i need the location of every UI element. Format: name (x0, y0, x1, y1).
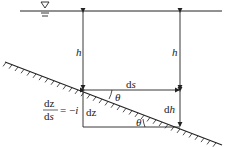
eq-denominator: ds (44, 110, 54, 122)
h-left-label: h (76, 46, 82, 58)
slope-equation: dz ds = −i (43, 97, 78, 122)
channel-bed-line (5, 62, 222, 145)
water-surface-icon (41, 2, 49, 16)
slope-diagram: h h ds θ θ dh dz dz ds = −i (0, 0, 231, 147)
theta-top-arc (109, 90, 112, 99)
theta-bottom-label: θ (136, 116, 142, 128)
theta-top-label: θ (115, 91, 121, 103)
dh-label: dh (164, 103, 176, 115)
theta-bottom-arc (143, 119, 145, 127)
eq-numerator: dz (44, 97, 55, 109)
bed-hatching (3, 62, 216, 146)
ds-label: ds (126, 78, 136, 90)
h-right-label: h (172, 46, 178, 58)
eq-rhs: = −i (60, 104, 78, 116)
dz-label: dz (86, 106, 97, 118)
